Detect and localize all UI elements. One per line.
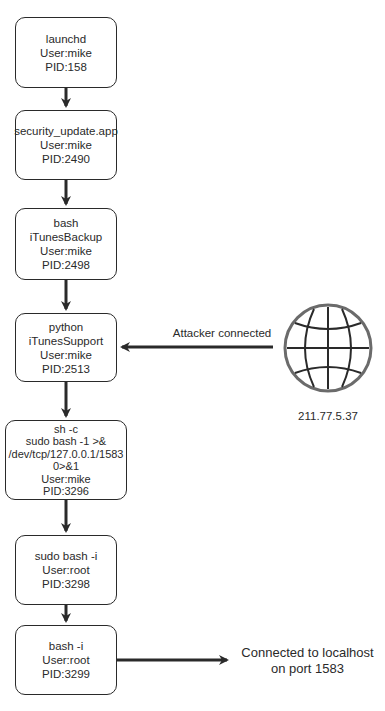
node-line: sudo bash -i [35, 549, 98, 563]
process-node-bash-i: bash -i User:root PID:3299 [15, 625, 117, 695]
node-line: sh -c [54, 423, 78, 436]
process-node-launchd: launchd User:mike PID:158 [15, 17, 117, 88]
node-line: launchd [46, 32, 86, 46]
process-node-sudo-bash: sudo bash -i User:root PID:3298 [15, 535, 117, 605]
node-line: PID:2513 [42, 362, 90, 376]
attacker-connected-label: Attacker connected [162, 327, 282, 339]
attacker-ip-label: 211.77.5.37 [283, 410, 373, 422]
node-line: User:mike [40, 244, 92, 258]
node-line: bash [54, 216, 79, 230]
node-line: User:mike [40, 138, 92, 152]
node-line: PID:3298 [42, 577, 90, 591]
node-line: User:root [42, 563, 89, 577]
process-node-python-itunessupport: python iTunesSupport User:mike PID:2513 [15, 313, 117, 382]
process-node-security-update: security_update.app User:mike PID:2490 [15, 110, 117, 180]
node-line: User:root [42, 653, 89, 667]
node-line: PID:2498 [42, 258, 90, 272]
localhost-label: Connected to localhost on port 1583 [230, 645, 385, 677]
node-line: bash -i [49, 639, 84, 653]
node-line: PID:3299 [42, 667, 90, 681]
localhost-label-line: Connected to localhost [230, 645, 385, 661]
node-line: User:mike [41, 473, 91, 486]
node-line: /dev/tcp/127.0.0.1/1583 [9, 448, 124, 461]
localhost-label-line: on port 1583 [230, 661, 385, 677]
node-line: python [49, 320, 84, 334]
node-line: iTunesSupport [29, 334, 103, 348]
process-node-sh-c: sh -c sudo bash -1 >& /dev/tcp/127.0.0.1… [5, 420, 127, 500]
node-line: PID:3296 [43, 485, 89, 498]
node-line: 0>&1 [53, 460, 79, 473]
process-node-bash-itunesbackup: bash iTunesBackup User:mike PID:2498 [15, 208, 117, 280]
node-line: security_update.app [14, 124, 118, 138]
node-line: PID:158 [45, 60, 87, 74]
node-line: sudo bash -1 >& [26, 435, 106, 448]
node-line: User:mike [40, 46, 92, 60]
node-line: PID:2490 [42, 152, 90, 166]
node-line: iTunesBackup [30, 230, 102, 244]
node-line: User:mike [40, 348, 92, 362]
globe-icon [285, 305, 371, 391]
